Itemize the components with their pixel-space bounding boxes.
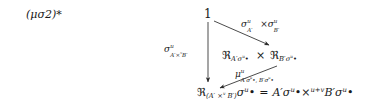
times-glyph: × [260, 19, 268, 29]
mu-sub-right-bullet: • [270, 77, 273, 83]
equals-glyph: = [259, 86, 268, 99]
fraktur-r-bottom: ℜ [197, 86, 206, 99]
right-bullet: • [293, 55, 297, 63]
fraktur-r-right: ℜ [270, 49, 279, 62]
arrow-label-apex-to-bottom: σ u A′×vB′ [164, 45, 200, 54]
left-sub-superscript: u [242, 54, 245, 59]
rhs-right-sup: u [343, 86, 347, 94]
right-sub-text: B′σ [279, 55, 290, 63]
fraktur-r-right-subscript: B′σu• [279, 55, 297, 63]
node-bottom: ℜ(A′ ×v B′)σu•=A′σu•×u+vB′σu• [197, 87, 353, 98]
node-apex: 1 [204, 8, 212, 20]
arrow-label-middle-to-bottom: μ u A′σu•, B′σu• [235, 70, 303, 79]
sigma-subscript-left: A′×vB′ [170, 53, 187, 59]
rhs-left-sup: u [290, 86, 294, 94]
rhs-times-sup: u+v [310, 86, 324, 94]
sigma-superscript-2: u [274, 19, 278, 25]
fraktur-r-left: ℜ [222, 49, 231, 62]
sub-times-superscript: v [180, 51, 182, 55]
mu-sub-left-sup: u [250, 76, 252, 80]
rhs-right-operand: B′σ [324, 86, 342, 99]
bottom-sub-open: (A′ [206, 92, 217, 100]
sub-right-operand: B′ [182, 52, 187, 58]
diagram-canvas: (μσ2)* 1 σ u A′ ×σ u B′ σ u A′×vB′ [0, 0, 377, 109]
right-sub-superscript: u [290, 54, 293, 59]
mu-superscript: u [241, 69, 245, 75]
arrow-label-apex-to-middle: σ u A′ ×σ u B′ [241, 20, 285, 29]
sigma-subscript: A′ [247, 28, 252, 34]
bottom-bullet: • [249, 86, 256, 99]
bottom-sigma-sup: u [244, 86, 248, 94]
sigma-subscript-2: B′ [274, 28, 279, 34]
fraktur-r-left-subscript: A′σu• [231, 55, 249, 63]
rhs-right-bullet: • [347, 86, 354, 99]
middle-times-glyph: × [256, 49, 265, 62]
left-sub-text: A′σ [231, 55, 242, 63]
sigma-superscript: u [247, 19, 251, 25]
mu-sub-right: B′σ [259, 77, 268, 83]
mu-subscript: A′σu•, B′σu• [241, 78, 274, 84]
mu-sub-left: A′σ [241, 77, 250, 83]
sigma-superscript-left: u [170, 44, 174, 50]
node-middle: ℜA′σu•×ℜB′σu• [222, 50, 297, 61]
rhs-left-operand: A′σ [272, 86, 290, 99]
equation-tag: (μσ2)* [26, 9, 62, 20]
bottom-sub-close: B′) [225, 92, 236, 100]
left-bullet: • [245, 55, 249, 63]
fraktur-r-bottom-subscript: (A′ ×v B′) [206, 92, 237, 100]
